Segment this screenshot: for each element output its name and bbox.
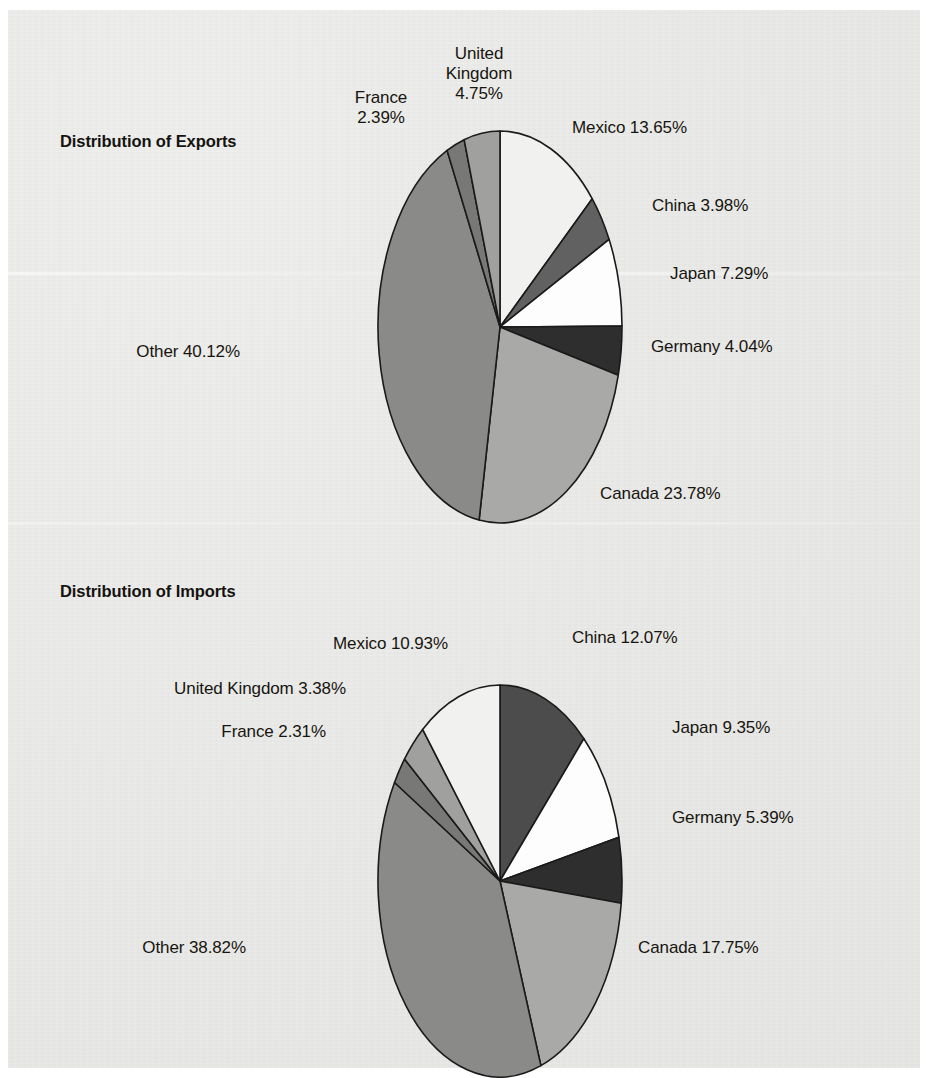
pie-exports-slice-group <box>378 131 622 523</box>
label-imports-germany: Germany 5.39% <box>672 808 794 828</box>
label-exports-china: China 3.98% <box>652 196 748 216</box>
label-exports-germany: Germany 4.04% <box>651 337 773 357</box>
pie-imports-slice-group <box>378 685 622 1077</box>
chart-exports: Distribution of Exports Mexico 13.65% Ch… <box>0 0 928 540</box>
label-exports-france: France 2.39% <box>328 88 434 128</box>
label-imports-france: France 2.31% <box>88 722 326 742</box>
label-imports-china: China 12.07% <box>572 628 678 648</box>
label-exports-united-kingdom: United Kingdom 4.75% <box>420 44 538 104</box>
label-imports-united-kingdom: United Kingdom 3.38% <box>62 679 346 699</box>
label-imports-other: Other 38.82% <box>60 938 246 958</box>
label-imports-canada: Canada 17.75% <box>638 938 759 958</box>
label-imports-mexico: Mexico 10.93% <box>218 634 448 654</box>
label-exports-other: Other 40.12% <box>58 342 240 362</box>
label-exports-japan: Japan 7.29% <box>670 264 768 284</box>
label-exports-mexico: Mexico 13.65% <box>572 118 687 138</box>
page-root: Distribution of Exports Mexico 13.65% Ch… <box>0 0 928 1078</box>
label-imports-japan: Japan 9.35% <box>672 718 770 738</box>
chart-imports: Distribution of Imports China 12.07% Jap… <box>0 540 928 1078</box>
label-exports-canada: Canada 23.78% <box>600 484 721 504</box>
